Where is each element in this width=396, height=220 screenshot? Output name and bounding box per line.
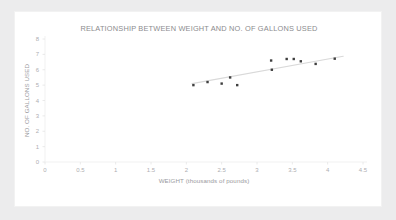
axis-titles-group: WEIGHT (thousands of pounds)NO. OF GALLO… — [23, 64, 249, 184]
x-axis-tick-label: 3.5 — [288, 167, 297, 173]
x-axis-tick-label: 0 — [43, 167, 47, 173]
y-axis-tick-label: 8 — [36, 36, 40, 42]
x-axis-tick-label: 1.5 — [147, 167, 156, 173]
x-axis-title: WEIGHT (thousands of pounds) — [159, 177, 250, 184]
y-axis-tick-label: 2 — [36, 128, 40, 134]
y-axis-tick-label: 5 — [36, 82, 40, 88]
y-axis-tick-label: 4 — [36, 98, 40, 104]
y-axis-title: NO. OF GALLONS USED — [23, 64, 30, 138]
data-point-marker — [236, 84, 238, 86]
chart-card: RELATIONSHIP BETWEEN WEIGHT AND NO. OF G… — [14, 11, 382, 207]
data-point-marker — [285, 58, 287, 60]
data-point-marker — [270, 59, 272, 61]
screenshot-background: RELATIONSHIP BETWEEN WEIGHT AND NO. OF G… — [0, 0, 396, 220]
x-axis-group: 00.511.522.533.544.5 — [43, 162, 368, 173]
data-point-marker — [206, 81, 208, 83]
x-axis-tick-label: 4 — [326, 167, 330, 173]
scatter-chart-svg: 012345678 00.511.522.533.544.5 WEIGHT (t… — [15, 12, 383, 208]
data-point-marker — [229, 76, 231, 78]
x-axis-tick-label: 1 — [114, 167, 118, 173]
x-axis-tick-label: 2 — [185, 167, 189, 173]
trendline — [192, 56, 343, 83]
data-point-marker — [271, 69, 273, 71]
x-axis-tick-label: 3 — [255, 167, 259, 173]
y-axis-tick-label: 1 — [36, 144, 40, 150]
data-point-marker — [192, 84, 194, 86]
y-axis-tick-label: 6 — [36, 67, 40, 73]
data-point-marker — [300, 60, 302, 62]
y-axis-tick-label: 7 — [36, 51, 40, 57]
trendline-group — [192, 56, 343, 83]
x-axis-tick-label: 4.5 — [359, 167, 368, 173]
data-point-marker — [220, 82, 222, 84]
data-point-marker — [334, 57, 336, 59]
data-point-marker — [293, 58, 295, 60]
y-axis-tick-label: 0 — [36, 159, 40, 165]
x-axis-tick-label: 2.5 — [217, 167, 226, 173]
y-axis-tick-label: 3 — [36, 113, 40, 119]
data-point-marker — [314, 63, 316, 65]
x-axis-tick-label: 0.5 — [76, 167, 85, 173]
y-axis-group: 012345678 — [36, 36, 45, 165]
plot-area: 012345678 00.511.522.533.544.5 WEIGHT (t… — [15, 12, 383, 208]
